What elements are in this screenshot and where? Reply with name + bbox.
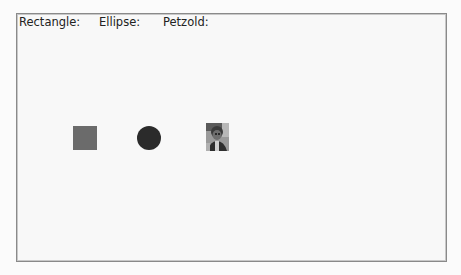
- ellipse-shape: [137, 126, 161, 150]
- portrait-photo-icon: [206, 123, 229, 151]
- petzold-portrait-image: [206, 123, 229, 151]
- drawing-canvas: Rectangle: Ellipse: Petzold:: [16, 13, 447, 262]
- rectangle-label: Rectangle:: [19, 15, 80, 29]
- petzold-label: Petzold:: [163, 15, 209, 29]
- ellipse-label: Ellipse:: [99, 15, 140, 29]
- rectangle-shape: [73, 126, 97, 150]
